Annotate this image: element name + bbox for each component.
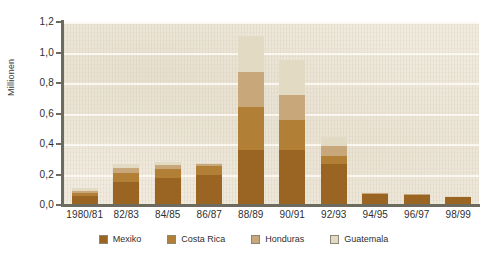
bar-segment-mexiko[interactable] bbox=[321, 164, 347, 205]
y-axis-tick-label: 1,0 bbox=[8, 47, 54, 58]
bar-segment-mexiko[interactable] bbox=[238, 150, 264, 205]
bar-segment-costarica[interactable] bbox=[196, 166, 222, 174]
y-axis-tick-mark bbox=[56, 21, 62, 23]
bar-segment-mexiko[interactable] bbox=[155, 178, 181, 205]
bar-segment-mexiko[interactable] bbox=[113, 182, 139, 205]
legend-swatch-icon bbox=[251, 235, 260, 244]
legend-item-costarica[interactable]: Costa Rica bbox=[167, 234, 225, 244]
x-axis-tick-labels: 1980/8182/8384/8586/8788/8990/9192/9394/… bbox=[0, 209, 487, 227]
legend-label: Honduras bbox=[265, 234, 304, 244]
bar-segment-guatemala[interactable] bbox=[238, 36, 264, 73]
bar-column[interactable] bbox=[279, 60, 305, 205]
y-axis-tick-label: 0,6 bbox=[8, 108, 54, 119]
y-axis-tick-label: 1,2 bbox=[8, 16, 54, 27]
bar-segment-honduras[interactable] bbox=[321, 146, 347, 157]
legend-item-guatemala[interactable]: Guatemala bbox=[330, 234, 388, 244]
bar-segment-costarica[interactable] bbox=[279, 120, 305, 151]
legend-swatch-icon bbox=[167, 235, 176, 244]
bar-segment-mexiko[interactable] bbox=[196, 175, 222, 206]
legend-item-mexiko[interactable]: Mexiko bbox=[99, 234, 142, 244]
y-axis-tick-label: 0,2 bbox=[8, 169, 54, 180]
y-axis-tick-label: 0,4 bbox=[8, 138, 54, 149]
bar-segment-costarica[interactable] bbox=[321, 156, 347, 164]
bar-segment-mexiko[interactable] bbox=[279, 150, 305, 205]
bar-column[interactable] bbox=[321, 137, 347, 205]
legend-label: Costa Rica bbox=[181, 234, 225, 244]
legend-label: Mexiko bbox=[113, 234, 142, 244]
stacked-bar-chart-figure: Millionen 0,00,20,40,60,81,01,2 1980/818… bbox=[0, 0, 487, 262]
bar-segment-costarica[interactable] bbox=[113, 173, 139, 182]
bar-column[interactable] bbox=[113, 164, 139, 205]
plot-area bbox=[64, 22, 479, 205]
bar-segment-costarica[interactable] bbox=[238, 107, 264, 150]
bar-segment-guatemala[interactable] bbox=[279, 60, 305, 95]
x-axis-tick-label: 98/99 bbox=[428, 209, 487, 220]
y-axis-tick-label: 0,8 bbox=[8, 77, 54, 88]
legend-label: Guatemala bbox=[344, 234, 388, 244]
bar-segment-costarica[interactable] bbox=[155, 169, 181, 177]
y-axis-tick-mark bbox=[56, 52, 62, 54]
bar-segment-guatemala[interactable] bbox=[321, 137, 347, 145]
bar-column[interactable] bbox=[72, 188, 98, 205]
bar-segment-honduras[interactable] bbox=[279, 95, 305, 119]
y-axis-tick-mark bbox=[56, 82, 62, 84]
y-axis-tick-mark bbox=[56, 143, 62, 145]
legend-item-honduras[interactable]: Honduras bbox=[251, 234, 304, 244]
bar-column[interactable] bbox=[155, 162, 181, 205]
bar-segment-honduras[interactable] bbox=[238, 72, 264, 107]
legend-swatch-icon bbox=[99, 235, 108, 244]
bar-column[interactable] bbox=[196, 163, 222, 205]
chart-legend: MexikoCosta RicaHondurasGuatemala bbox=[0, 231, 487, 247]
bar-series-container bbox=[64, 22, 479, 205]
x-axis-line bbox=[61, 204, 480, 207]
y-axis-tick-mark bbox=[56, 204, 62, 206]
y-axis-tick-mark bbox=[56, 174, 62, 176]
bar-column[interactable] bbox=[238, 36, 264, 205]
legend-swatch-icon bbox=[330, 235, 339, 244]
y-axis-tick-mark bbox=[56, 113, 62, 115]
